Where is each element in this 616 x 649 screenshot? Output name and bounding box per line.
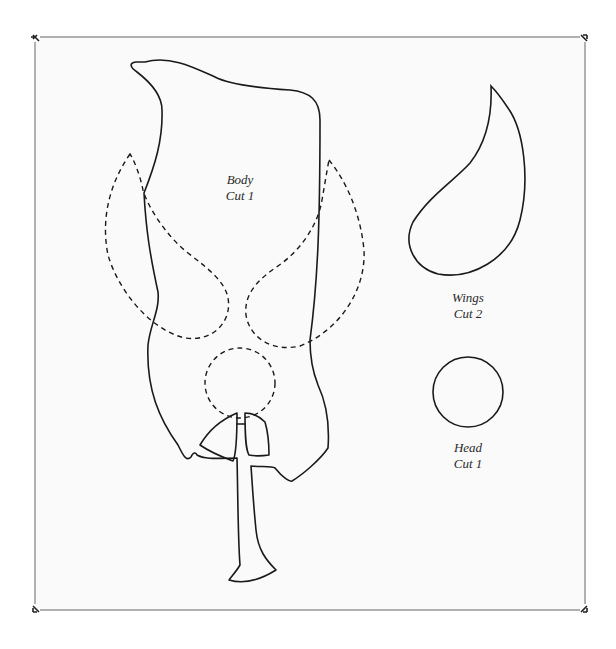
paper-area: [35, 36, 586, 611]
head-label: Head Cut 1: [433, 440, 503, 472]
body-cut-count: Cut 1: [205, 188, 275, 204]
body-name: Body: [205, 172, 275, 188]
wings-name: Wings: [433, 290, 503, 306]
wings-cut-count: Cut 2: [433, 306, 503, 322]
pattern-sheet: [0, 0, 616, 649]
head-name: Head: [433, 440, 503, 456]
wings-label: Wings Cut 2: [433, 290, 503, 322]
body-label: Body Cut 1: [205, 172, 275, 204]
head-cut-count: Cut 1: [433, 456, 503, 472]
